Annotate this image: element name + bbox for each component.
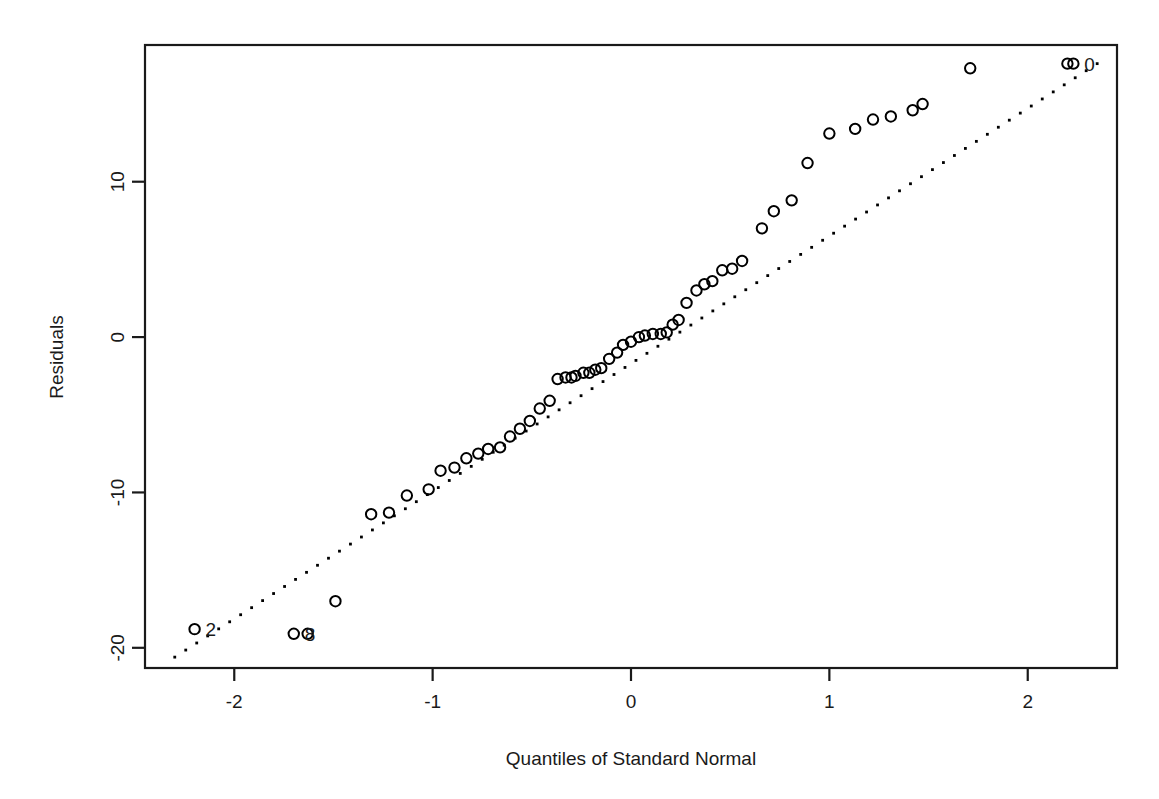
reference-line-dot — [360, 536, 363, 539]
reference-line-dot — [898, 189, 901, 192]
reference-line-dot — [569, 401, 572, 404]
reference-line-dot — [195, 642, 198, 645]
reference-line-dot — [657, 345, 660, 348]
x-tick-label: 2 — [1022, 691, 1033, 712]
reference-line-dot — [887, 196, 890, 199]
reference-line-dot — [283, 585, 286, 588]
reference-line-dot — [404, 507, 407, 510]
x-tick-label: 0 — [626, 691, 637, 712]
reference-line-dot — [1096, 62, 1099, 65]
reference-line-dot — [744, 288, 747, 291]
reference-line-dot — [876, 204, 879, 207]
reference-line-dot — [635, 359, 638, 362]
reference-line-dot — [678, 331, 681, 334]
x-axis-title: Quantiles of Standard Normal — [506, 748, 756, 769]
reference-line-dot — [327, 557, 330, 560]
reference-line-dot — [799, 253, 802, 256]
plot-background — [0, 0, 1159, 799]
reference-line-dot — [602, 380, 605, 383]
reference-line-dot — [1052, 91, 1055, 94]
reference-line-dot — [788, 260, 791, 263]
y-axis-title: Residuals — [46, 315, 67, 398]
point-label: 2 — [206, 619, 217, 640]
reference-line-dot — [931, 168, 934, 171]
reference-line-dot — [558, 408, 561, 411]
reference-line-dot — [1030, 105, 1033, 108]
y-tick-label: -10 — [107, 479, 128, 506]
reference-line-dot — [997, 126, 1000, 129]
reference-line-dot — [986, 133, 989, 136]
reference-line-dot — [250, 606, 253, 609]
reference-line-dot — [1074, 76, 1077, 79]
reference-line-dot — [689, 324, 692, 327]
x-tick-label: -2 — [226, 691, 243, 712]
reference-line-dot — [777, 267, 780, 270]
reference-line-dot — [261, 599, 264, 602]
qq-plot-canvas: 280 -2-1012 100-10-20 Quantiles of Stand… — [0, 0, 1159, 799]
reference-line-dot — [239, 613, 242, 616]
reference-line-dot — [733, 295, 736, 298]
reference-line-dot — [964, 147, 967, 150]
reference-line-dot — [349, 543, 352, 546]
reference-line-dot — [591, 387, 594, 390]
reference-line-dot — [942, 161, 945, 164]
reference-line-dot — [459, 472, 462, 475]
reference-line-dot — [843, 225, 846, 228]
reference-line-dot — [470, 465, 473, 468]
reference-line-dot — [415, 500, 418, 503]
x-tick-label: 1 — [824, 691, 835, 712]
reference-line-dot — [975, 140, 978, 143]
reference-line-dot — [371, 529, 374, 532]
reference-line-dot — [1019, 112, 1022, 115]
point-label: 8 — [305, 624, 316, 645]
point-label: 0 — [1084, 54, 1095, 75]
reference-line-dot — [294, 578, 297, 581]
reference-line-dot — [920, 175, 923, 178]
reference-line-dot — [580, 394, 583, 397]
reference-line-dot — [832, 232, 835, 235]
reference-line-dot — [909, 182, 912, 185]
reference-line-dot — [316, 564, 319, 567]
reference-line-dot — [766, 274, 769, 277]
reference-line-dot — [272, 592, 275, 595]
x-tick-label: -1 — [424, 691, 441, 712]
qq-plot-figure: 280 -2-1012 100-10-20 Quantiles of Stand… — [0, 0, 1159, 799]
y-tick-label: -20 — [107, 634, 128, 661]
reference-line-dot — [854, 218, 857, 221]
reference-line-dot — [338, 550, 341, 553]
reference-line-dot — [953, 154, 956, 157]
reference-line-dot — [700, 317, 703, 320]
reference-line-dot — [382, 521, 385, 524]
reference-line-dot — [437, 486, 440, 489]
reference-line-dot — [865, 211, 868, 214]
reference-line-dot — [722, 302, 725, 305]
reference-line-dot — [810, 246, 813, 249]
reference-line-dot — [624, 366, 627, 369]
reference-line-dot — [1063, 83, 1066, 86]
reference-line-dot — [217, 627, 220, 630]
reference-line-dot — [1008, 119, 1011, 122]
reference-line-dot — [1041, 98, 1044, 101]
reference-line-dot — [228, 620, 231, 623]
reference-line-dot — [173, 656, 176, 659]
reference-line-dot — [448, 479, 451, 482]
y-tick-label: 0 — [107, 332, 128, 343]
reference-line-dot — [184, 649, 187, 652]
reference-line-dot — [755, 281, 758, 284]
reference-line-dot — [547, 416, 550, 419]
reference-line-dot — [646, 352, 649, 355]
reference-line-dot — [711, 310, 714, 313]
reference-line-dot — [536, 423, 539, 426]
y-tick-label: 10 — [107, 171, 128, 192]
reference-line-dot — [305, 571, 308, 574]
reference-line-dot — [613, 373, 616, 376]
reference-line-dot — [821, 239, 824, 242]
